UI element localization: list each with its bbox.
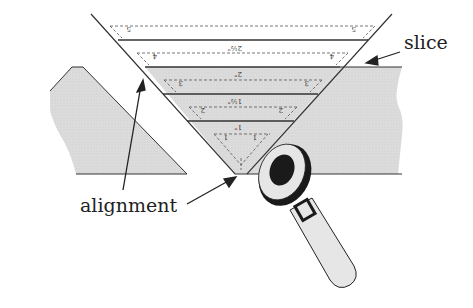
svg-text:1½": 1½" xyxy=(228,97,242,105)
svg-text:5: 5 xyxy=(352,25,356,33)
v-groove-diagram: 5 5 2½" 4 4 2" 3 3 1½" 2 2 1" 1 1 slice … xyxy=(0,0,473,308)
svg-text:3: 3 xyxy=(179,79,183,87)
slice-label: slice xyxy=(404,31,448,53)
svg-text:2: 2 xyxy=(201,106,205,114)
svg-text:5: 5 xyxy=(127,25,131,33)
alignment-label: alignment xyxy=(80,194,177,216)
svg-text:2": 2" xyxy=(234,70,242,78)
svg-text:3: 3 xyxy=(305,79,309,87)
svg-text:1": 1" xyxy=(234,123,242,131)
svg-text:1: 1 xyxy=(224,133,228,141)
svg-text:2½": 2½" xyxy=(228,44,242,52)
svg-text:4: 4 xyxy=(152,52,157,60)
svg-text:4: 4 xyxy=(329,52,334,60)
svg-text:2: 2 xyxy=(279,106,283,114)
svg-text:1: 1 xyxy=(253,133,257,141)
